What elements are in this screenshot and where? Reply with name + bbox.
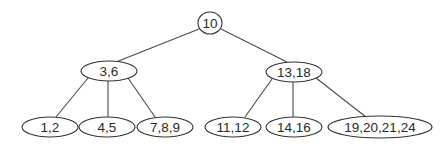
tree-node-n36: 3,6 <box>81 61 137 81</box>
edge-root-n1318 <box>221 29 287 62</box>
tree-node-n1416: 14,16 <box>266 117 322 137</box>
tree-node-n19202124: 19,20,21,24 <box>328 116 432 138</box>
tree-node-root: 10 <box>198 12 222 34</box>
node-label: 3,6 <box>100 64 119 79</box>
tree-node-n45: 4,5 <box>79 117 135 137</box>
edge-n36-n789 <box>128 78 155 117</box>
node-label: 13,18 <box>277 65 311 80</box>
tree-node-n1318: 13,18 <box>266 62 322 82</box>
edge-root-n36 <box>116 29 199 62</box>
node-label: 19,20,21,24 <box>344 120 416 135</box>
node-label: 10 <box>202 16 217 31</box>
b-tree-diagram: 103,613,181,24,57,8,911,1214,1619,20,21,… <box>0 0 443 151</box>
node-label: 1,2 <box>41 120 60 135</box>
node-label: 7,8,9 <box>150 120 180 135</box>
tree-nodes: 103,613,181,24,57,8,911,1214,1619,20,21,… <box>22 12 432 138</box>
node-label: 11,12 <box>217 120 250 135</box>
edge-n1318-n1112 <box>245 79 272 117</box>
tree-node-n1112: 11,12 <box>205 117 261 137</box>
tree-node-n789: 7,8,9 <box>137 117 193 137</box>
edge-n36-n12 <box>56 78 88 117</box>
node-label: 4,5 <box>98 120 117 135</box>
edge-n1318-n19202124 <box>316 78 366 117</box>
tree-node-n12: 1,2 <box>22 117 78 137</box>
node-label: 14,16 <box>277 120 311 135</box>
